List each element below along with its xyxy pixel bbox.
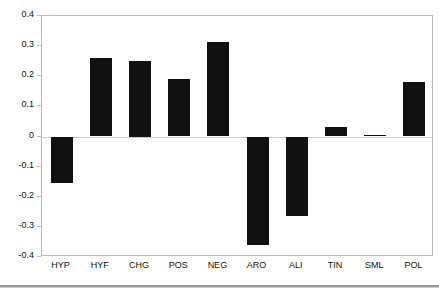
- y-axis: 0.40.30.20.10-0.1-0.2-0.3-0.4: [0, 0, 41, 293]
- bars-layer: [42, 16, 432, 255]
- bar-hyf: [90, 58, 112, 136]
- bar-pol: [403, 82, 425, 136]
- bar-chart-figure: 0.40.30.20.10-0.1-0.2-0.3-0.4 HYPHYFCHGP…: [0, 0, 439, 293]
- x-tick-label-pos: POS: [159, 260, 198, 271]
- x-tick-label-neg: NEG: [198, 260, 237, 271]
- bar-hyp: [51, 137, 73, 184]
- y-tick-label: -0.1: [18, 161, 34, 170]
- bar-aro: [247, 137, 269, 245]
- bar-pos: [168, 79, 190, 136]
- y-tick-label: -0.2: [18, 191, 34, 200]
- x-tick-label-hyf: HYF: [80, 260, 119, 271]
- page-bottom-rule-soft: [0, 287, 439, 288]
- x-tick-label-pol: POL: [394, 260, 433, 271]
- x-tick-label-hyp: HYP: [41, 260, 80, 271]
- x-tick-label-tin: TIN: [315, 260, 354, 271]
- bar-sml: [364, 135, 386, 137]
- y-tick-mark: [37, 256, 41, 257]
- bar-chg: [129, 61, 151, 136]
- y-tick-label: 0.3: [21, 40, 34, 49]
- bar-tin: [325, 127, 347, 136]
- x-tick-label-ali: ALI: [276, 260, 315, 271]
- x-tick-label-sml: SML: [355, 260, 394, 271]
- y-tick-label: 0.2: [21, 70, 34, 79]
- plot-area: [41, 15, 433, 256]
- x-axis: HYPHYFCHGPOSNEGAROALITINSMLPOL: [41, 260, 433, 276]
- y-tick-label: -0.3: [18, 221, 34, 230]
- bar-ali: [286, 137, 308, 217]
- y-tick-label: 0.1: [21, 100, 34, 109]
- y-tick-label: 0.4: [21, 10, 34, 19]
- x-tick-label-aro: ARO: [237, 260, 276, 271]
- y-tick-label: 0: [29, 131, 34, 140]
- bar-neg: [207, 42, 229, 137]
- x-tick-label-chg: CHG: [119, 260, 158, 271]
- y-tick-label: -0.4: [18, 251, 34, 260]
